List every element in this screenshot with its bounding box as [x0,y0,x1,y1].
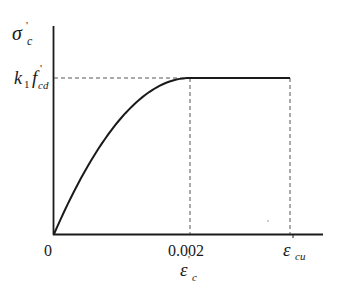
sigma-subscript: c [27,34,33,48]
f-subscript: cd [38,79,49,91]
f-prime: ' [40,62,42,74]
epsilon-cu-symbol: ε [283,239,291,260]
sigma-prime: ' [26,19,28,31]
k-coef: k [14,68,23,88]
sigma-symbol: σ [12,22,23,44]
x-tick-label-0: 0 [44,242,52,259]
x-tick-label-0002: 0.002 [168,242,204,259]
stress-strain-diagram: σ ' c k 1 f ' cd 0 0.002 ε cu ε ' c [0,0,345,295]
x-tick-label-ecu: ε cu [283,239,306,262]
k-subscript: 1 [24,78,30,90]
scan-speck [267,220,268,221]
y-axis-label: σ ' c [12,19,33,48]
plateau-label: k 1 f ' cd [14,62,49,91]
epsilon-c-symbol: ε [180,259,188,280]
epsilon-cu-subscript: cu [295,250,306,262]
epsilon-c-subscript: c [192,271,197,283]
epsilon-c-prime: ' [188,254,190,265]
curve-parabolic-segment [54,78,190,234]
